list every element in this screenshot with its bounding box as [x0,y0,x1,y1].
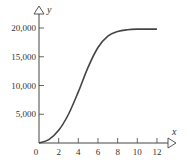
y-axis-arrow-icon [34,6,44,14]
chart: 5,00010,00015,00020,000 24681012 y x 0 [0,0,190,163]
y-tick-label: 10,000 [11,81,36,91]
x-tick-label: 10 [133,147,143,157]
x-axis-ticks: 24681012 [56,138,161,157]
y-tick-label: 20,000 [11,23,36,33]
x-tick-label: 2 [56,147,61,157]
y-tick-label: 15,000 [11,52,36,62]
data-curve [39,29,157,143]
x-tick-label: 4 [76,147,81,157]
x-axis-arrow-icon [168,138,176,148]
x-tick-label: 12 [152,147,161,157]
x-tick-label: 8 [115,147,120,157]
x-axis-label: x [171,126,177,137]
y-axis-label: y [46,4,52,15]
origin-label: 0 [34,147,39,157]
x-tick-label: 6 [96,147,101,157]
y-tick-label: 5,000 [16,109,37,119]
